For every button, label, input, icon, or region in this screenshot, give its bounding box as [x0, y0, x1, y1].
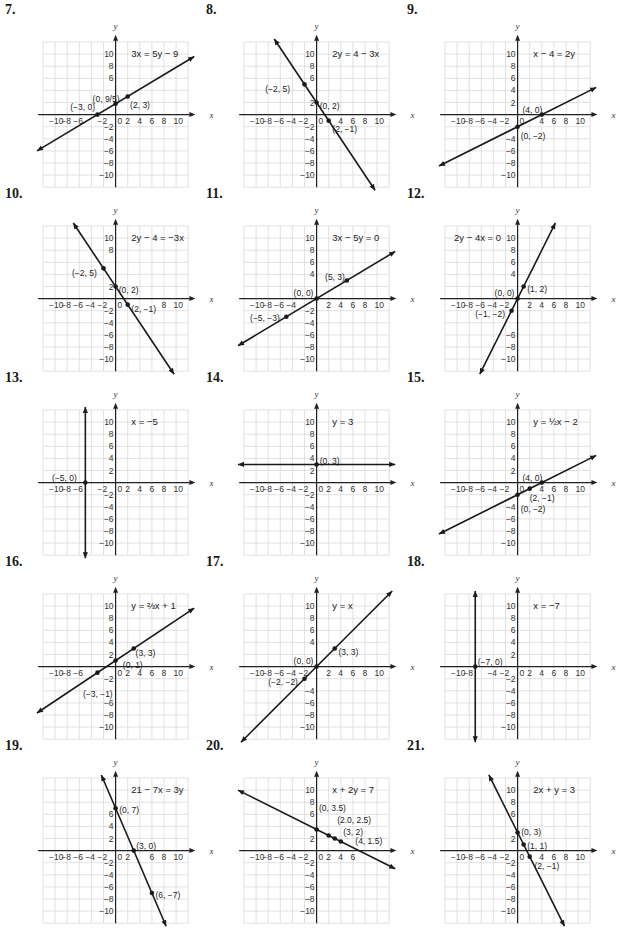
y-tick-label: 2 [511, 834, 516, 844]
plotted-point [83, 480, 88, 485]
y-tick-label: 8 [511, 245, 516, 255]
plotted-point [302, 676, 307, 681]
y-tick-label: 8 [109, 429, 114, 439]
x-tick-label: 2 [527, 668, 532, 678]
x-tick-label: −6 [73, 300, 83, 310]
point-label: (2.0, 2.5) [337, 815, 371, 825]
y-axis-arrow-icon [515, 219, 520, 225]
line-arrow-icon [238, 462, 244, 467]
equation-label: y = 3 [332, 416, 353, 427]
x-tick-label: 8 [564, 484, 569, 494]
point-label: (3, 3) [338, 647, 358, 657]
point-label: (−2, 5) [265, 84, 290, 94]
coordinate-plane: xy−10−8−6−424681010864−2−4−6−8−10(5, 3)(… [206, 186, 416, 370]
x-tick-label: −8 [262, 300, 272, 310]
x-axis-arrow-icon [189, 296, 195, 301]
x-tick-label: −4 [85, 300, 95, 310]
y-tick-label: −8 [104, 894, 114, 904]
graph-panel-14: 14.xy−10−8−6−4−20246810108642−2−4−6−8−10… [206, 370, 416, 554]
y-tick-label: 10 [104, 233, 114, 243]
x-tick-label: 8 [363, 668, 368, 678]
y-tick-label: −10 [501, 170, 516, 180]
y-tick-label: 6 [511, 809, 516, 819]
plotted-point [521, 284, 526, 289]
y-tick-label: −8 [506, 894, 516, 904]
point-label: (−2, 5) [72, 268, 97, 278]
point-label: (4, 0) [522, 473, 542, 483]
x-tick-label: 8 [162, 484, 167, 494]
y-tick-label: 8 [310, 61, 315, 71]
x-tick-label: −2 [500, 116, 510, 126]
x-axis-label: x [610, 110, 615, 120]
y-tick-label: −2 [305, 122, 315, 132]
x-tick-label: 0 [319, 116, 324, 126]
x-tick-label: 4 [338, 852, 343, 862]
y-tick-label: −6 [305, 882, 315, 892]
point-label: (3, 3) [136, 648, 156, 658]
coordinate-plane: xy−10−8−6−202468101086−2−4−6−8−10(−3, 0)… [5, 2, 215, 186]
y-axis-arrow-icon [113, 403, 118, 409]
coordinate-plane: xy−10−8−6−4−204681010862−2−4−6−8−10(−2, … [206, 2, 416, 186]
y-tick-label: −8 [506, 158, 516, 168]
x-tick-label: 8 [162, 852, 167, 862]
y-tick-label: 10 [506, 233, 516, 243]
point-label: (4, 0) [522, 105, 542, 115]
y-tick-label: −8 [506, 710, 516, 720]
y-tick-label: −8 [305, 894, 315, 904]
y-tick-label: 10 [305, 785, 315, 795]
x-tick-label: −8 [463, 852, 473, 862]
y-axis-arrow-icon [314, 771, 319, 777]
x-tick-label: −4 [487, 300, 497, 310]
y-tick-label: 2 [310, 834, 315, 844]
y-tick-label: 4 [511, 269, 516, 279]
point-label: (5, 3) [325, 272, 345, 282]
point-label: (−3, 0) [70, 102, 95, 112]
x-tick-label: 8 [162, 668, 167, 678]
y-tick-label: 10 [104, 49, 114, 59]
x-tick-label: −6 [73, 668, 83, 678]
coordinate-plane: xy−10−8−4−20246810108642−2−4−6−8−10(−7, … [407, 554, 617, 738]
y-axis-arrow-icon [113, 771, 118, 777]
x-tick-label: 8 [363, 484, 368, 494]
x-tick-label: 10 [174, 484, 184, 494]
y-tick-label: −10 [300, 538, 315, 548]
equation-label: y = ½x − 2 [533, 416, 577, 427]
plotted-point [339, 839, 344, 844]
y-tick-label: −8 [104, 342, 114, 352]
x-tick-label: −6 [475, 300, 485, 310]
y-tick-label: −8 [305, 158, 315, 168]
y-tick-label: −10 [501, 906, 516, 916]
y-axis-label: y [314, 21, 319, 31]
point-label: (−7, 0) [478, 657, 503, 667]
x-tick-label: −6 [274, 484, 284, 494]
plotted-point [302, 82, 307, 87]
coordinate-plane: xy−10−8−6−4−2046810108642−4−6−8−10(4, 0)… [407, 2, 617, 186]
y-tick-label: 6 [109, 73, 114, 83]
y-axis-arrow-icon [515, 403, 520, 409]
y-tick-label: 2 [109, 466, 114, 476]
plotted-point [527, 854, 532, 859]
x-tick-label: 2 [326, 484, 331, 494]
y-tick-label: 4 [109, 821, 114, 831]
graph-panel-21: 21.xy−10−8−6−4−204681010862−2−4−6−8−10(0… [407, 738, 617, 922]
point-label: (0, 3) [320, 456, 340, 466]
graph-panel-8: 8.xy−10−8−6−4−204681010862−2−4−6−8−10(−2… [206, 2, 416, 186]
point-label: (−3, −1) [83, 689, 113, 699]
y-tick-label: −8 [104, 526, 114, 536]
equation-label: 2x + y = 3 [533, 784, 575, 795]
plotted-point [515, 296, 520, 301]
y-tick-label: −6 [506, 514, 516, 524]
y-tick-label: −4 [506, 686, 516, 696]
y-tick-label: 10 [305, 601, 315, 611]
y-axis-label: y [113, 389, 118, 399]
point-label: (0, −2) [521, 504, 546, 514]
x-tick-label: 10 [375, 668, 385, 678]
x-axis-arrow-icon [189, 112, 195, 117]
x-tick-label: 10 [174, 668, 184, 678]
plotted-point [95, 670, 100, 675]
point-label: (0, 2) [119, 285, 139, 295]
y-tick-label: −4 [305, 502, 315, 512]
y-tick-label: 6 [310, 625, 315, 635]
y-tick-label: −2 [506, 858, 516, 868]
x-tick-label: 0 [118, 116, 123, 126]
